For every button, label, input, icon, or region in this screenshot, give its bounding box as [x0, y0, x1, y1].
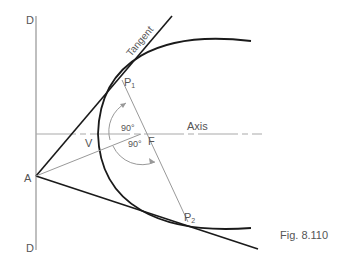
parabola-tangent-diagram: D D A V F P1 P2 Axis Tangent 90° 90° Fig…	[0, 0, 345, 270]
focus-label: F	[148, 135, 155, 147]
figure-caption: Fig. 8.110	[280, 229, 328, 241]
angle-label-upper: 90°	[121, 123, 135, 133]
directrix-label-top: D	[26, 14, 34, 26]
vertex-label: V	[85, 137, 93, 149]
tangent-line-upper	[36, 16, 172, 176]
axis-label: Axis	[187, 120, 208, 132]
focal-line-p1-p2	[122, 80, 188, 222]
tangent-line-lower	[36, 176, 258, 249]
point-a-label: A	[24, 172, 32, 184]
p1-label: P1	[124, 76, 135, 89]
p2-label: P2	[184, 211, 195, 224]
arrowhead-upper	[120, 103, 126, 108]
angle-label-lower: 90°	[128, 139, 142, 149]
arrowhead-lower	[149, 158, 155, 164]
directrix-label-bottom: D	[26, 242, 34, 254]
